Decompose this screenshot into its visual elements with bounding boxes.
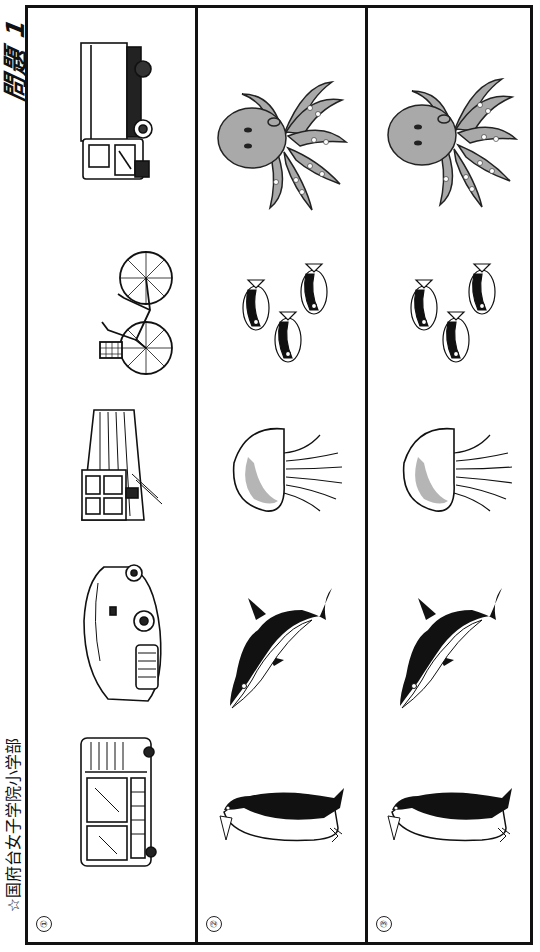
worksheet-frame: ① <box>25 5 533 945</box>
column-label: ① <box>36 916 52 932</box>
train-icon[interactable] <box>74 404 166 524</box>
dolphin-icon[interactable] <box>392 580 508 714</box>
penguin-icon[interactable] <box>382 784 516 852</box>
column-1-vehicles: ① <box>28 8 195 942</box>
bicycle-icon[interactable] <box>84 248 176 376</box>
car-icon[interactable] <box>74 561 170 706</box>
column-3-sea-animals: ③ <box>368 8 533 942</box>
column-label: ② <box>206 916 222 932</box>
column-label: ③ <box>376 916 392 932</box>
fish-icon[interactable] <box>234 256 330 374</box>
school-name: ☆国府台女子学院小学部 <box>0 700 24 950</box>
jellyfish-icon[interactable] <box>396 423 516 515</box>
penguin-icon[interactable] <box>214 784 348 852</box>
column-2-sea-animals: ② <box>198 8 365 942</box>
octopus-icon[interactable] <box>214 74 348 214</box>
jellyfish-icon[interactable] <box>226 423 346 515</box>
dolphin-icon[interactable] <box>222 580 338 714</box>
page-title: 問題 1 <box>0 4 28 114</box>
bus-icon[interactable] <box>71 732 167 874</box>
octopus-icon[interactable] <box>384 71 518 211</box>
fish-icon[interactable] <box>402 256 498 374</box>
truck-icon[interactable] <box>71 41 161 183</box>
